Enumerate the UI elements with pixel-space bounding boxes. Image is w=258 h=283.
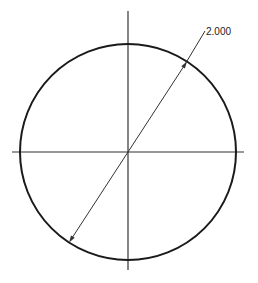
- drawing-canvas: 2.000: [0, 0, 258, 283]
- arrowhead-lower-icon: [69, 235, 75, 242]
- leader-line: [184, 31, 205, 66]
- arrowhead-upper-icon: [181, 61, 187, 68]
- dimension-value[interactable]: 2.000: [206, 26, 231, 37]
- diameter-dimension[interactable]: 2.000: [69, 26, 231, 243]
